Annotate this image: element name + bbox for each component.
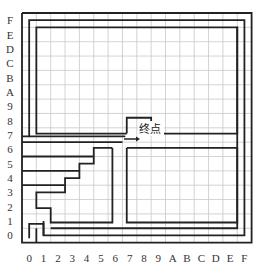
svg-text:A: A: [169, 252, 177, 264]
end-label: 终点: [139, 122, 161, 136]
svg-text:F: F: [241, 252, 247, 264]
x-axis-labels: 0123456789ABCDEF: [26, 252, 247, 264]
svg-text:D: D: [212, 252, 220, 264]
svg-text:5: 5: [7, 158, 13, 170]
svg-text:C: C: [6, 57, 13, 69]
svg-text:6: 6: [113, 252, 119, 264]
maze-diagram: 0123456789ABCDEF FEDCBA9876543210 终点: [0, 0, 258, 275]
svg-text:8: 8: [141, 252, 147, 264]
svg-text:B: B: [6, 72, 13, 84]
svg-text:5: 5: [98, 252, 104, 264]
svg-text:D: D: [6, 43, 14, 55]
svg-text:C: C: [198, 252, 205, 264]
grid-lines: [22, 13, 252, 243]
svg-text:B: B: [183, 252, 190, 264]
svg-text:9: 9: [156, 252, 162, 264]
svg-text:2: 2: [55, 252, 61, 264]
arrow-icon: [124, 137, 140, 142]
svg-text:7: 7: [7, 129, 13, 141]
svg-text:3: 3: [7, 186, 13, 198]
svg-text:F: F: [7, 14, 13, 26]
svg-text:1: 1: [7, 215, 13, 227]
svg-text:E: E: [227, 252, 234, 264]
svg-text:8: 8: [7, 115, 13, 127]
svg-text:7: 7: [127, 252, 133, 264]
svg-text:A: A: [6, 86, 14, 98]
svg-text:4: 4: [7, 172, 13, 184]
svg-text:1: 1: [41, 252, 47, 264]
svg-text:3: 3: [69, 252, 75, 264]
svg-text:0: 0: [7, 229, 13, 241]
svg-text:2: 2: [7, 201, 13, 213]
svg-text:6: 6: [7, 143, 13, 155]
svg-text:0: 0: [26, 252, 32, 264]
y-axis-labels: FEDCBA9876543210: [6, 14, 14, 241]
svg-text:9: 9: [7, 100, 13, 112]
svg-text:E: E: [7, 29, 14, 41]
svg-text:4: 4: [84, 252, 90, 264]
